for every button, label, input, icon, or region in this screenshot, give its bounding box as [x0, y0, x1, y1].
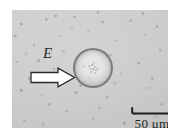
scale-bar-bracket-icon	[131, 106, 168, 116]
scale-bar-label: 50 μm	[123, 117, 168, 128]
droplet-circle	[73, 48, 113, 88]
droplet-interior-texture	[79, 54, 107, 82]
field-label: E	[43, 46, 52, 61]
right-block-arrow-icon	[30, 67, 76, 88]
micrograph-image: E 50 μm	[12, 10, 168, 128]
micrograph-figure: E 50 μm	[0, 0, 176, 137]
